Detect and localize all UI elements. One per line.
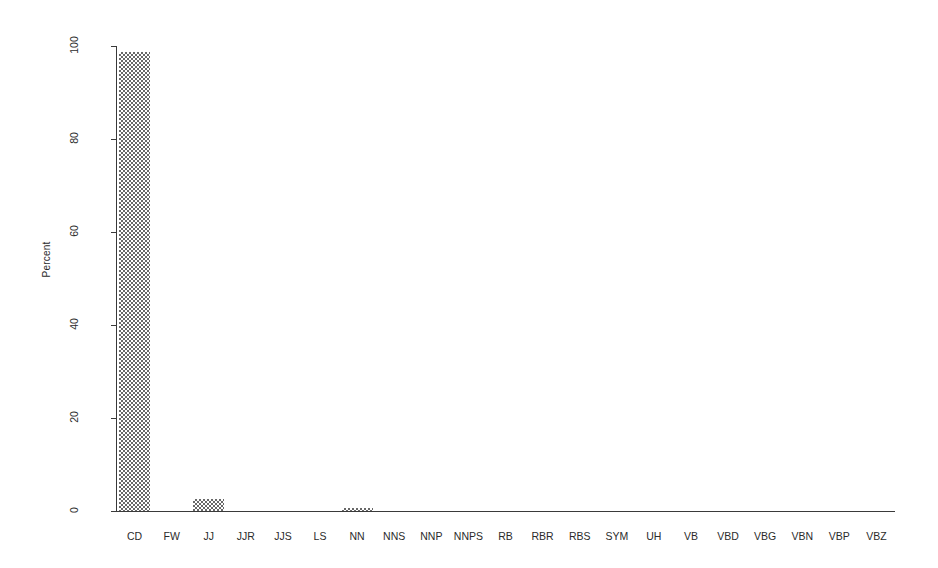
- y-axis-tick-label: 0: [68, 490, 80, 530]
- bar[interactable]: [342, 508, 373, 511]
- x-axis-tick-label: LS: [314, 530, 327, 542]
- x-axis-tick-label: NNP: [420, 530, 442, 542]
- x-axis-tick-label: RB: [498, 530, 513, 542]
- bar[interactable]: [193, 499, 224, 511]
- x-axis-tick-label: VBN: [791, 530, 813, 542]
- y-axis-tick: [111, 46, 117, 47]
- x-axis-tick-label: VBD: [717, 530, 739, 542]
- x-axis-tick-label: NNS: [383, 530, 405, 542]
- y-axis-tick: [111, 232, 117, 233]
- x-axis-tick-label: JJR: [237, 530, 255, 542]
- y-axis-tick: [111, 325, 117, 326]
- x-axis-line: [116, 511, 895, 512]
- y-axis-title: Percent: [41, 220, 52, 300]
- y-axis-tick: [111, 418, 117, 419]
- x-axis-tick-label: VB: [684, 530, 698, 542]
- bar-chart: Percent 020406080100 CDFWJJJJRJJSLSNNNNS…: [0, 0, 938, 568]
- x-axis-tick-label: NN: [350, 530, 365, 542]
- x-axis-tick-label: VBZ: [866, 530, 886, 542]
- y-axis-tick-label: 20: [68, 397, 80, 437]
- y-axis-tick-label: 100: [68, 25, 80, 65]
- x-axis-tick-label: VBG: [754, 530, 776, 542]
- y-axis-tick: [111, 139, 117, 140]
- x-axis-tick-label: NNPS: [454, 530, 483, 542]
- x-axis-tick-label: RBS: [569, 530, 591, 542]
- y-axis-tick-label: 80: [68, 118, 80, 158]
- x-axis-tick-label: SYM: [605, 530, 628, 542]
- y-axis-line: [116, 46, 117, 512]
- y-axis-tick-label: 40: [68, 304, 80, 344]
- x-axis-tick-label: JJ: [203, 530, 214, 542]
- x-axis-tick-label: CD: [127, 530, 142, 542]
- plot-area: [0, 0, 938, 568]
- y-axis-tick-label: 60: [68, 211, 80, 251]
- x-axis-tick-label: FW: [163, 530, 179, 542]
- x-axis-tick-label: UH: [646, 530, 661, 542]
- bar[interactable]: [119, 52, 150, 511]
- x-axis-tick-label: JJS: [274, 530, 292, 542]
- x-axis-tick-label: RBR: [532, 530, 554, 542]
- x-axis-tick-label: VBP: [829, 530, 850, 542]
